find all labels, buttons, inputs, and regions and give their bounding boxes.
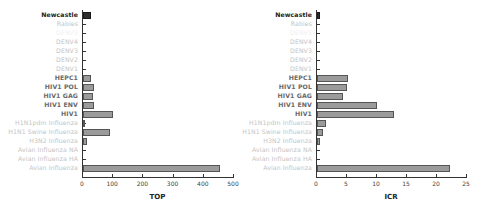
x-tick-label: 200 — [137, 180, 148, 187]
top-chart: NewcastleRabiesDENV5DENV4DENV3DENV2DENV1… — [0, 0, 241, 208]
category-label: HIV1 POL — [279, 83, 312, 91]
x-tick-label: 0 — [314, 180, 318, 187]
bar — [83, 129, 110, 136]
y-tick — [317, 150, 320, 151]
category-label: HIV1 — [295, 110, 312, 118]
category-label: DENV3 — [290, 47, 312, 55]
category-label: DENV5 — [290, 29, 312, 37]
bar — [317, 138, 320, 145]
category-label: Newcastle — [41, 11, 78, 19]
bar — [83, 75, 91, 82]
bar — [317, 111, 394, 118]
y-tick — [317, 159, 320, 160]
y-tick — [83, 150, 86, 151]
x-tick-label: 400 — [197, 180, 208, 187]
bar — [83, 165, 220, 172]
category-label: DENV3 — [56, 47, 78, 55]
bar — [317, 120, 326, 127]
bar — [83, 102, 94, 109]
bar — [83, 111, 113, 118]
y-axis — [316, 10, 317, 177]
category-label: HIV1 GAG — [44, 92, 78, 100]
x-tick-label: 5 — [344, 180, 348, 187]
category-label: Rabies — [57, 20, 78, 28]
category-label: DENV1 — [290, 65, 312, 73]
bar — [317, 75, 348, 82]
x-axis-title: TOP — [150, 193, 166, 201]
category-label: HEPC1 — [289, 74, 312, 82]
category-label: DENV5 — [56, 29, 78, 37]
category-label: Rabies — [291, 20, 312, 28]
category-label: DENV4 — [290, 38, 312, 46]
category-label: HIV1 ENV — [44, 101, 78, 109]
x-tick — [112, 174, 113, 177]
category-label: DENV4 — [56, 38, 78, 46]
y-tick — [317, 33, 320, 34]
x-tick — [406, 174, 407, 177]
category-label: Newcastle — [275, 11, 312, 19]
x-tick-label: 0 — [80, 180, 84, 187]
x-tick — [142, 174, 143, 177]
category-label: DENV2 — [56, 56, 78, 64]
category-label: Avian Influenza NA — [252, 146, 312, 154]
x-axis — [82, 177, 234, 178]
x-tick — [173, 174, 174, 177]
y-tick — [83, 51, 86, 52]
y-tick — [83, 159, 86, 160]
category-label: Avian Influenza HA — [252, 155, 312, 163]
category-label: HEPC1 — [55, 74, 78, 82]
category-label: Avian Influenza NA — [18, 146, 78, 154]
category-label: H1N1 Swine Influenza — [8, 128, 78, 136]
category-label: DENV1 — [56, 65, 78, 73]
x-tick — [233, 174, 234, 177]
y-tick — [83, 42, 86, 43]
x-axis-title: ICR — [384, 193, 397, 201]
category-label: H1N1 Swine Influenza — [242, 128, 312, 136]
category-label: HIV1 POL — [45, 83, 78, 91]
x-tick — [346, 174, 347, 177]
bar — [83, 138, 87, 145]
bar — [317, 84, 347, 91]
y-tick — [317, 51, 320, 52]
category-label: DENV2 — [290, 56, 312, 64]
x-tick-label: 300 — [167, 180, 178, 187]
x-tick-label: 500 — [227, 180, 238, 187]
category-label: Avian Influenza HA — [18, 155, 78, 163]
x-tick-label: 20 — [432, 180, 440, 187]
category-label: H3N2 Influenza — [263, 137, 312, 145]
bar — [83, 120, 85, 127]
x-tick — [376, 174, 377, 177]
icr-chart: NewcastleRabiesDENV5DENV4DENV3DENV2DENV1… — [241, 0, 482, 208]
category-label: H1N1pdm Influenza — [249, 119, 312, 127]
y-tick — [83, 69, 86, 70]
x-tick-label: 100 — [106, 180, 117, 187]
category-label: HIV1 GAG — [278, 92, 312, 100]
x-tick — [436, 174, 437, 177]
category-label: Avian Influenza — [263, 164, 312, 172]
category-label: Avian Influenza — [29, 164, 78, 172]
y-tick — [317, 42, 320, 43]
category-label: H1N1pdm Influenza — [15, 119, 78, 127]
bar — [83, 12, 91, 19]
bar — [83, 93, 93, 100]
bar — [83, 84, 94, 91]
y-tick — [317, 69, 320, 70]
bar — [317, 12, 320, 19]
x-tick — [203, 174, 204, 177]
category-label: HIV1 — [61, 110, 78, 118]
x-tick — [82, 174, 83, 177]
x-tick — [466, 174, 467, 177]
category-label: HIV1 ENV — [278, 101, 312, 109]
x-tick — [316, 174, 317, 177]
x-tick-label: 25 — [462, 180, 470, 187]
bar — [317, 165, 450, 172]
y-tick — [83, 60, 86, 61]
y-tick — [317, 24, 320, 25]
y-tick — [83, 33, 86, 34]
bar — [317, 102, 377, 109]
y-tick — [317, 60, 320, 61]
category-label: H3N2 Influenza — [29, 137, 78, 145]
y-axis — [82, 10, 83, 177]
x-axis — [316, 177, 467, 178]
x-tick-label: 15 — [402, 180, 410, 187]
